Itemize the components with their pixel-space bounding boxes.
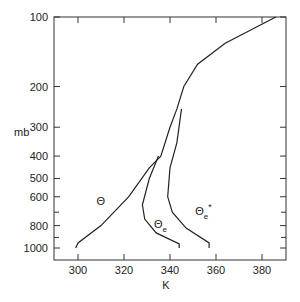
chart: 1002003004005006008001000 30032034036038… [0,0,300,302]
y-tick-label: 500 [30,172,48,184]
y-tick-label: 100 [30,11,48,23]
x-tick-label: 320 [115,264,133,276]
x-axis-label: K [162,279,170,291]
plot-frame [54,17,286,260]
x-tick-label: 300 [69,264,87,276]
series-line [76,17,276,248]
x-axis: 300320340360380 [69,17,271,276]
y-tick-label: 300 [30,121,48,133]
y-tick-label: 800 [30,220,48,232]
series-line [168,109,209,248]
x-tick-label: 360 [207,264,225,276]
x-tick-label: 340 [161,264,179,276]
y-tick-label: 600 [30,191,48,203]
x-tick-label: 380 [253,264,271,276]
y-tick-label: 400 [30,150,48,162]
series-label: Θ [96,195,105,207]
y-tick-label: 200 [30,81,48,93]
annotations: ΘΘeΘe* [96,195,212,234]
y-axis-label: mb [14,126,29,138]
series-lines [76,17,276,248]
y-tick-label: 1000 [24,242,48,254]
series-label: Θe* [195,202,212,221]
